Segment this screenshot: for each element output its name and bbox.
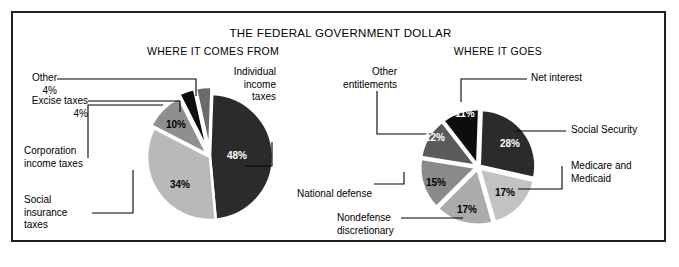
figure-root: THE FEDERAL GOVERNMENT DOLLAR WHERE IT C… [0,0,679,267]
slice-value-net-interest: 11% [455,108,474,119]
slice-value-social-insurance: 34% [170,179,190,190]
label-social-insurance-taxes: Social insurance taxes [24,194,104,232]
slice-value-other-entitlements: 12% [425,132,445,143]
label-individual-income-taxes: Individual income taxes [215,66,276,104]
label-nondefense-discretionary: Nondefense discretionary [337,212,423,237]
slice-value-corporation: 10% [166,119,186,130]
label-medicare-medicaid: Medicare and Medicaid [571,160,671,185]
left-panel-heading: WHERE IT COMES FROM [73,45,353,57]
slice-value-nondefense: 17% [457,204,477,215]
label-excise-taxes: Excise taxes 4% [0,95,88,120]
figure-frame: THE FEDERAL GOVERNMENT DOLLAR WHERE IT C… [11,11,666,242]
page-title: THE FEDERAL GOVERNMENT DOLLAR [13,27,668,39]
right-panel-heading: WHERE IT GOES [363,45,633,57]
label-net-interest: Net interest [531,72,651,85]
slice-value-social-security: 28% [500,138,520,149]
label-other-entitlements: Other entitlements [331,66,397,91]
label-corporation-income-taxes: Corporation income taxes [24,145,129,170]
label-national-defense: National defense [282,188,372,201]
slice-value-national-defense: 15% [426,177,446,188]
label-other: Other 4% [0,72,57,97]
label-social-security: Social Security [571,124,676,137]
slice-value-medicare: 17% [495,187,515,198]
slice-value-individual: 48% [227,150,247,161]
